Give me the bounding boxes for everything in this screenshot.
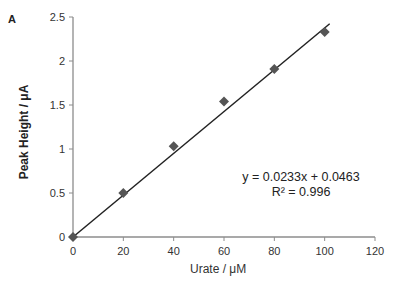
regression-equation: y = 0.0233x + 0.0463 bbox=[226, 170, 376, 185]
y-tick-label: 2.5 bbox=[50, 11, 65, 23]
panel-label: A bbox=[8, 13, 16, 25]
data-point-diamond bbox=[320, 27, 330, 37]
y-tick-label: 0 bbox=[59, 231, 65, 243]
x-tick-label: 60 bbox=[218, 245, 230, 257]
x-tick-label: 0 bbox=[70, 245, 76, 257]
x-tick-label: 40 bbox=[168, 245, 180, 257]
x-axis-label: Urate / μM bbox=[190, 262, 246, 276]
y-tick-label: 1 bbox=[59, 143, 65, 155]
data-point-diamond bbox=[118, 188, 128, 198]
r-squared: R² = 0.996 bbox=[226, 185, 376, 200]
regression-annotation: y = 0.0233x + 0.0463 R² = 0.996 bbox=[226, 170, 376, 200]
trendline bbox=[73, 24, 330, 237]
x-tick-label: 80 bbox=[268, 245, 280, 257]
chart-canvas: 02040608010012000.511.522.5 bbox=[0, 0, 401, 290]
y-tick-label: 1.5 bbox=[50, 99, 65, 111]
x-tick-label: 120 bbox=[366, 245, 384, 257]
data-point-diamond bbox=[219, 96, 229, 106]
y-tick-label: 0.5 bbox=[50, 187, 65, 199]
y-tick-label: 2 bbox=[59, 55, 65, 67]
y-axis-label: Peak Height / μA bbox=[17, 72, 31, 192]
x-tick-label: 20 bbox=[117, 245, 129, 257]
x-tick-label: 100 bbox=[315, 245, 333, 257]
